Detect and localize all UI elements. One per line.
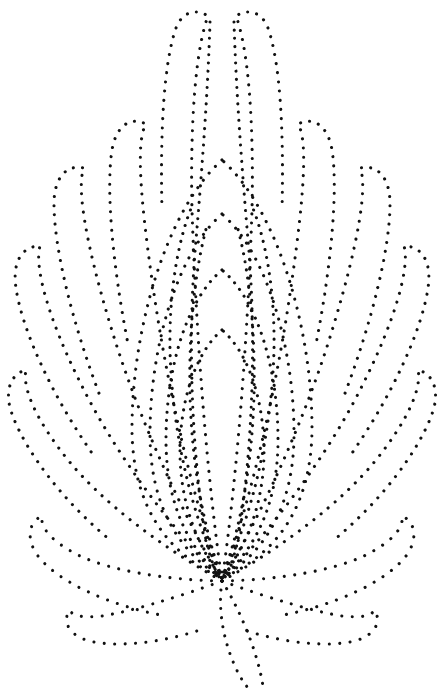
canvas-background [0, 0, 438, 695]
dotted-floral-motif [0, 0, 438, 695]
artwork-canvas [0, 0, 438, 695]
